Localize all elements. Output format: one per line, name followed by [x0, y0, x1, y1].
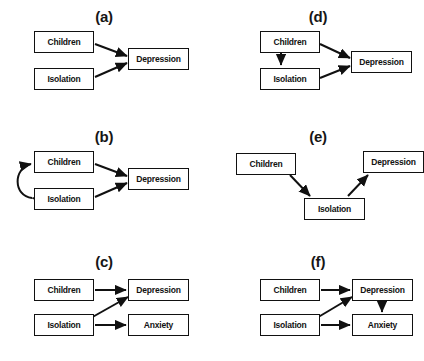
node-depression: Depression — [352, 279, 413, 301]
node-isolation: Isolation — [34, 188, 94, 210]
panel-f-edges — [208, 241, 416, 361]
edge-children-to-depression — [95, 44, 127, 56]
edge-isolation-to-depression — [95, 63, 127, 77]
node-children: Children — [34, 279, 94, 301]
node-children: Children — [236, 153, 296, 175]
panel-b: (b) Children Isolation Depression — [0, 120, 208, 240]
edge-isolation-to-depression — [89, 297, 128, 319]
edge-isolation-to-depression — [315, 297, 352, 319]
node-anxiety: Anxiety — [128, 314, 189, 336]
edge-isolation-to-depression — [95, 183, 127, 197]
node-isolation: Isolation — [260, 314, 320, 336]
node-children: Children — [260, 31, 320, 53]
node-isolation: Isolation — [260, 68, 320, 90]
node-depression: Depression — [128, 279, 189, 301]
panel-f: (f) Children Isolation Depression Anxiet… — [208, 241, 416, 361]
edge-children-to-isolation — [290, 175, 310, 196]
edge-children-to-depression — [95, 164, 127, 176]
edge-children-isolation-correlation — [18, 164, 32, 198]
panel-e: (e) Children Depression Isolation — [208, 120, 416, 240]
node-children: Children — [260, 279, 320, 301]
edge-children-to-depression — [320, 44, 350, 58]
node-depression: Depression — [351, 51, 412, 73]
panel-e-edges — [208, 120, 416, 240]
node-depression: Depression — [128, 48, 189, 70]
edge-isolation-to-depression — [348, 175, 368, 196]
node-isolation: Isolation — [34, 314, 94, 336]
node-isolation: Isolation — [304, 198, 365, 220]
panel-d: (d) Children Isolation Depression — [208, 0, 416, 120]
panel-c-edges — [0, 241, 208, 361]
panel-a: (a) Children Isolation Depression — [0, 0, 208, 120]
node-depression: Depression — [128, 168, 189, 190]
node-depression: Depression — [363, 151, 424, 173]
node-isolation: Isolation — [34, 68, 94, 90]
node-anxiety: Anxiety — [352, 314, 413, 336]
node-children: Children — [34, 151, 94, 173]
edge-isolation-to-depression — [320, 66, 350, 78]
node-children: Children — [34, 31, 94, 53]
panel-c: (c) Children Isolation Depression Anxiet… — [0, 241, 208, 361]
